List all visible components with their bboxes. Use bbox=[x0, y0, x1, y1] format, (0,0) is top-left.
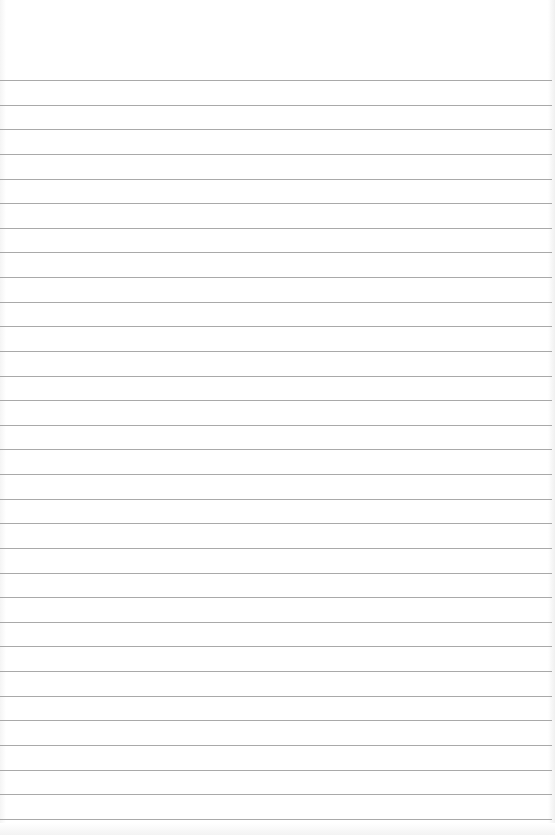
ruled-line bbox=[0, 770, 552, 771]
ruled-line bbox=[0, 80, 552, 81]
ruled-line bbox=[0, 794, 552, 795]
ruled-line bbox=[0, 474, 552, 475]
ruled-line bbox=[0, 129, 552, 130]
ruled-line bbox=[0, 622, 552, 623]
ruled-line bbox=[0, 745, 552, 746]
ruled-line bbox=[0, 597, 552, 598]
ruled-line bbox=[0, 277, 552, 278]
ruled-line bbox=[0, 351, 552, 352]
ruled-line bbox=[0, 646, 552, 647]
ruled-line bbox=[0, 400, 552, 401]
ruled-line bbox=[0, 105, 552, 106]
ruled-line bbox=[0, 376, 552, 377]
ruled-line bbox=[0, 449, 552, 450]
ruled-line bbox=[0, 228, 552, 229]
ruled-line bbox=[0, 425, 552, 426]
ruled-line bbox=[0, 523, 552, 524]
ruled-line bbox=[0, 573, 552, 574]
ruled-line bbox=[0, 671, 552, 672]
ruled-line bbox=[0, 179, 552, 180]
ruled-line bbox=[0, 154, 552, 155]
ruled-line bbox=[0, 720, 552, 721]
lined-paper-page bbox=[0, 0, 555, 835]
ruled-line bbox=[0, 203, 552, 204]
ruled-line bbox=[0, 499, 552, 500]
page-bottom-shade bbox=[0, 823, 555, 835]
ruled-line bbox=[0, 252, 552, 253]
ruled-line bbox=[0, 696, 552, 697]
ruled-line bbox=[0, 548, 552, 549]
ruled-line bbox=[0, 302, 552, 303]
ruled-line bbox=[0, 819, 552, 820]
ruled-line bbox=[0, 326, 552, 327]
